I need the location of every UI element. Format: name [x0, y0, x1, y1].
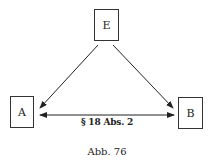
edge-e-to-a	[40, 45, 98, 108]
node-b: B	[178, 97, 203, 129]
node-e-label: E	[102, 19, 110, 32]
node-a-label: A	[18, 106, 26, 119]
node-b-label: B	[186, 107, 194, 120]
node-a: A	[10, 96, 34, 128]
edge-a-b-label: § 18 Abs. 2	[67, 117, 147, 127]
node-e: E	[94, 9, 119, 41]
edge-e-to-b	[113, 45, 173, 108]
figure-caption: Abb. 76	[67, 146, 147, 157]
